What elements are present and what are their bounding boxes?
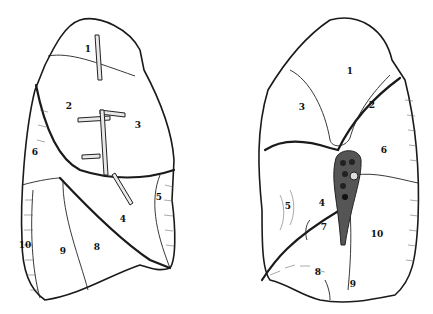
segment-label: 7 — [321, 222, 327, 232]
segment-label: 10 — [371, 229, 384, 239]
segment-label: 2 — [369, 100, 375, 110]
segment-label: 4 — [319, 198, 325, 208]
segment-label: 5 — [156, 192, 162, 202]
segment-label: 9 — [60, 246, 66, 256]
segment-label: 6 — [381, 145, 387, 155]
segment-label: 3 — [135, 120, 141, 130]
segment-label: 4 — [120, 214, 126, 224]
segment-label: 2 — [66, 101, 72, 111]
segment-label: 6 — [32, 147, 38, 157]
segment-label: 8 — [315, 267, 321, 277]
lung-segments-diagram: 1 2 3 6 5 4 10 9 8 1 3 2 6 5 4 7 10 8 9 — [0, 0, 433, 314]
segment-label: 1 — [85, 44, 91, 54]
left-lung — [22, 19, 175, 300]
segment-label: 1 — [347, 66, 353, 76]
right-lung — [259, 18, 419, 302]
segment-label: 3 — [299, 102, 305, 112]
segment-label: 5 — [285, 201, 291, 211]
segment-label: 8 — [94, 242, 100, 252]
segment-label: 10 — [19, 240, 32, 250]
segment-label: 9 — [350, 279, 356, 289]
